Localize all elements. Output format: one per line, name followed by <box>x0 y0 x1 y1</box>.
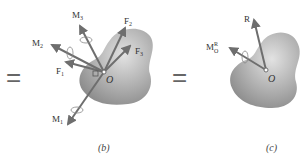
label-R: R <box>244 14 250 24</box>
label-M1: M1 <box>52 114 63 125</box>
label-M2: M2 <box>32 38 43 49</box>
caption-c: (c) <box>266 142 277 153</box>
statics-diagram: F2 F3 F1 M2 M3 M1 O R MRO O <box>0 0 308 158</box>
point-O-c <box>264 68 268 72</box>
label-F2: F2 <box>124 16 132 27</box>
label-MOR: MRO <box>206 41 219 54</box>
label-O-b: O <box>106 74 113 85</box>
label-O-c: O <box>268 73 275 84</box>
caption-b: (b) <box>98 142 110 153</box>
label-M3: M3 <box>72 10 83 21</box>
label-F1: F1 <box>56 66 64 77</box>
